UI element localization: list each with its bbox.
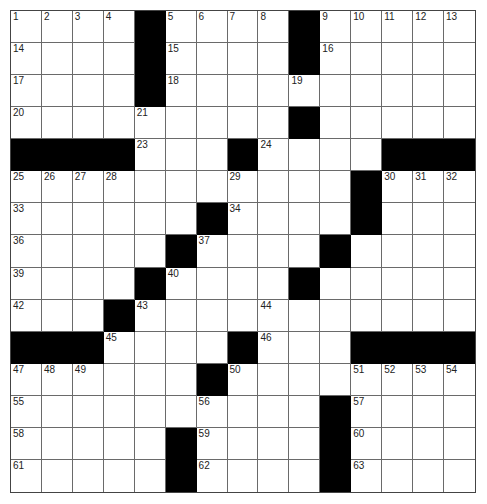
grid-cell[interactable] (197, 43, 228, 75)
grid-cell[interactable] (444, 300, 475, 332)
grid-cell[interactable] (73, 107, 104, 139)
grid-cell[interactable] (289, 171, 320, 203)
grid-cell[interactable]: 23 (135, 139, 166, 171)
grid-cell[interactable]: 50 (228, 364, 259, 396)
grid-cell[interactable]: 14 (11, 43, 42, 75)
grid-cell[interactable]: 30 (382, 171, 413, 203)
grid-cell[interactable]: 10 (351, 11, 382, 43)
grid-cell[interactable] (166, 396, 197, 428)
grid-cell[interactable]: 2 (42, 11, 73, 43)
grid-cell[interactable] (197, 75, 228, 107)
grid-cell[interactable]: 53 (413, 364, 444, 396)
grid-cell[interactable]: 52 (382, 364, 413, 396)
grid-cell[interactable]: 48 (42, 364, 73, 396)
grid-cell[interactable]: 5 (166, 11, 197, 43)
grid-cell[interactable] (228, 107, 259, 139)
grid-cell[interactable] (135, 428, 166, 460)
grid-cell[interactable] (104, 107, 135, 139)
grid-cell[interactable] (135, 460, 166, 492)
grid-cell[interactable] (166, 300, 197, 332)
grid-cell[interactable] (413, 235, 444, 267)
grid-cell[interactable]: 1 (11, 11, 42, 43)
grid-cell[interactable]: 24 (258, 139, 289, 171)
grid-cell[interactable]: 20 (11, 107, 42, 139)
grid-cell[interactable] (42, 75, 73, 107)
grid-cell[interactable] (258, 235, 289, 267)
grid-cell[interactable] (135, 332, 166, 364)
grid-cell[interactable] (166, 364, 197, 396)
grid-cell[interactable] (258, 107, 289, 139)
grid-cell[interactable]: 39 (11, 268, 42, 300)
grid-cell[interactable] (320, 332, 351, 364)
grid-cell[interactable] (320, 75, 351, 107)
grid-cell[interactable]: 55 (11, 396, 42, 428)
grid-cell[interactable]: 11 (382, 11, 413, 43)
grid-cell[interactable]: 7 (228, 11, 259, 43)
grid-cell[interactable] (258, 75, 289, 107)
grid-cell[interactable]: 58 (11, 428, 42, 460)
grid-cell[interactable] (104, 460, 135, 492)
grid-cell[interactable] (382, 460, 413, 492)
grid-cell[interactable] (197, 171, 228, 203)
grid-cell[interactable]: 12 (413, 11, 444, 43)
grid-cell[interactable] (444, 203, 475, 235)
grid-cell[interactable] (382, 107, 413, 139)
grid-cell[interactable]: 17 (11, 75, 42, 107)
grid-cell[interactable] (104, 43, 135, 75)
grid-cell[interactable] (351, 43, 382, 75)
grid-cell[interactable] (42, 107, 73, 139)
grid-cell[interactable] (289, 332, 320, 364)
grid-cell[interactable]: 32 (444, 171, 475, 203)
grid-cell[interactable] (73, 235, 104, 267)
grid-cell[interactable] (444, 75, 475, 107)
grid-cell[interactable]: 62 (197, 460, 228, 492)
grid-cell[interactable] (320, 139, 351, 171)
grid-cell[interactable] (166, 203, 197, 235)
grid-cell[interactable] (258, 364, 289, 396)
grid-cell[interactable] (166, 139, 197, 171)
grid-cell[interactable]: 6 (197, 11, 228, 43)
grid-cell[interactable] (258, 428, 289, 460)
grid-cell[interactable]: 34 (228, 203, 259, 235)
grid-cell[interactable] (228, 460, 259, 492)
grid-cell[interactable]: 47 (11, 364, 42, 396)
grid-cell[interactable] (42, 235, 73, 267)
grid-cell[interactable]: 28 (104, 171, 135, 203)
grid-cell[interactable] (104, 203, 135, 235)
grid-cell[interactable] (289, 396, 320, 428)
grid-cell[interactable]: 56 (197, 396, 228, 428)
grid-cell[interactable] (413, 75, 444, 107)
grid-cell[interactable] (320, 268, 351, 300)
grid-cell[interactable] (135, 235, 166, 267)
grid-cell[interactable] (42, 428, 73, 460)
grid-cell[interactable]: 21 (135, 107, 166, 139)
grid-cell[interactable] (73, 396, 104, 428)
grid-cell[interactable] (73, 43, 104, 75)
grid-cell[interactable] (73, 460, 104, 492)
grid-cell[interactable] (228, 428, 259, 460)
grid-cell[interactable]: 61 (11, 460, 42, 492)
grid-cell[interactable] (73, 300, 104, 332)
grid-cell[interactable] (104, 268, 135, 300)
grid-cell[interactable] (42, 460, 73, 492)
grid-cell[interactable]: 37 (197, 235, 228, 267)
grid-cell[interactable] (258, 43, 289, 75)
grid-cell[interactable]: 9 (320, 11, 351, 43)
grid-cell[interactable] (382, 428, 413, 460)
grid-cell[interactable] (351, 235, 382, 267)
grid-cell[interactable]: 59 (197, 428, 228, 460)
grid-cell[interactable] (382, 268, 413, 300)
grid-cell[interactable]: 40 (166, 268, 197, 300)
grid-cell[interactable] (104, 428, 135, 460)
grid-cell[interactable] (289, 235, 320, 267)
grid-cell[interactable] (444, 107, 475, 139)
grid-cell[interactable] (320, 300, 351, 332)
grid-cell[interactable] (413, 460, 444, 492)
grid-cell[interactable] (258, 396, 289, 428)
grid-cell[interactable] (382, 203, 413, 235)
grid-cell[interactable] (351, 268, 382, 300)
grid-cell[interactable] (197, 300, 228, 332)
grid-cell[interactable] (135, 171, 166, 203)
grid-cell[interactable] (351, 139, 382, 171)
grid-cell[interactable] (289, 460, 320, 492)
